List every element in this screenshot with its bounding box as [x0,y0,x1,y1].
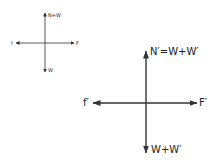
small-normal-force-label: N=W [48,13,61,18]
force-diagrams [0,0,218,164]
small-applied-force-label: F [76,41,79,46]
large-applied-force-label: F′ [199,98,207,108]
large-force-diagram [93,51,197,153]
small-weight-label: W [48,68,53,73]
large-normal-force-label: N′=W+W′ [150,47,199,57]
small-force-diagram [16,13,74,72]
large-friction-label: f′ [83,98,89,108]
small-friction-label: f [11,41,13,46]
large-weight-label: W+W′ [151,145,181,155]
